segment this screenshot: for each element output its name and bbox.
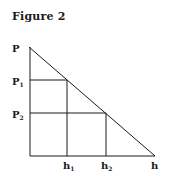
- label-h: h: [151, 160, 159, 171]
- label-p: P: [12, 43, 20, 54]
- label-p2: P2: [12, 109, 24, 121]
- label-h2: h2: [101, 160, 112, 172]
- label-p1: P1: [12, 76, 24, 88]
- hypotenuse: [29, 47, 155, 156]
- label-h1: h1: [63, 160, 74, 172]
- triangle-diagram: P P1 P2 h1 h2 h: [0, 0, 169, 176]
